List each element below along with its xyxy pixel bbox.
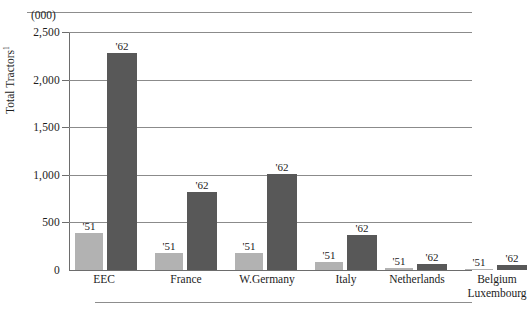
y-axis-tick-label: 0 bbox=[54, 264, 60, 276]
bar-label-1962: '62 bbox=[116, 40, 129, 52]
category-label-line: France bbox=[170, 273, 201, 285]
top-rule bbox=[27, 12, 472, 13]
bar-label-1951: '51 bbox=[473, 256, 486, 268]
bar-1951: '51 bbox=[75, 233, 103, 270]
bar-label-1951: '51 bbox=[83, 220, 96, 232]
x-axis-baseline bbox=[69, 270, 472, 271]
bar-1962: '62 bbox=[187, 192, 217, 270]
y-axis-title-footnote-marker: 1 bbox=[2, 46, 11, 50]
x-axis-category-label: BelgiumLuxembourg bbox=[453, 273, 531, 300]
y-axis-tick bbox=[62, 222, 69, 223]
bar-label-1962: '62 bbox=[276, 161, 289, 173]
x-axis-category-label: W.Germany bbox=[225, 273, 309, 287]
bar-1951: '51 bbox=[385, 268, 413, 270]
bar-group: '51'62 bbox=[235, 32, 297, 270]
bar-group: '51'62 bbox=[75, 32, 137, 270]
bar-1962: '62 bbox=[497, 265, 527, 270]
y-axis-title: Total Tractors1 bbox=[2, 96, 16, 114]
y-axis-tick bbox=[62, 127, 69, 128]
bar-group: '51'62 bbox=[155, 32, 217, 270]
x-axis-category-label: Italy bbox=[307, 273, 385, 287]
bar-1951: '51 bbox=[155, 253, 183, 270]
y-axis-tick bbox=[62, 32, 69, 33]
category-label-line: EEC bbox=[93, 273, 115, 285]
bar-label-1951: '51 bbox=[393, 255, 406, 267]
x-axis-category-label: France bbox=[147, 273, 225, 287]
bar-label-1962: '62 bbox=[426, 251, 439, 263]
category-label-line: Netherlands bbox=[389, 273, 445, 285]
bar-label-1951: '51 bbox=[163, 240, 176, 252]
bar-label-1962: '62 bbox=[506, 252, 519, 264]
y-axis-tick-label: 2,500 bbox=[33, 26, 60, 38]
bar-group: '51'62 bbox=[385, 32, 447, 270]
x-axis-category-label: Netherlands bbox=[375, 273, 459, 287]
y-axis-tick bbox=[62, 175, 69, 176]
category-label-line: Italy bbox=[335, 273, 356, 285]
x-axis-category-label: EEC bbox=[67, 273, 141, 287]
y-axis-title-text: Total Tractors bbox=[4, 50, 16, 114]
y-axis-tick-label: 2,000 bbox=[33, 74, 60, 86]
unit-caption: (000) bbox=[31, 9, 56, 21]
category-label-line: Luxembourg bbox=[453, 287, 531, 301]
bar-1951: '51 bbox=[465, 269, 493, 271]
category-label-line: Belgium bbox=[477, 273, 517, 285]
bar-1962: '62 bbox=[417, 264, 447, 270]
y-axis-tick-label: 1,500 bbox=[33, 121, 60, 133]
bar-label-1962: '62 bbox=[196, 179, 209, 191]
bar-1951: '51 bbox=[315, 262, 343, 270]
y-axis-tick-label: 500 bbox=[42, 216, 60, 228]
y-axis-tick bbox=[62, 80, 69, 81]
bar-label-1951: '51 bbox=[243, 240, 256, 252]
bar-label-1951: '51 bbox=[323, 249, 336, 261]
bar-1962: '62 bbox=[107, 53, 137, 270]
category-label-line: W.Germany bbox=[239, 273, 294, 285]
bar-1951: '51 bbox=[235, 253, 263, 270]
plot-area: 05001,0001,5002,0002,500'51'62'51'62'51'… bbox=[69, 32, 472, 270]
bar-1962: '62 bbox=[267, 174, 297, 270]
bottom-rule bbox=[95, 302, 472, 303]
bar-group: '51'62 bbox=[315, 32, 377, 270]
y-axis-tick-label: 1,000 bbox=[33, 169, 60, 181]
bar-group: '51'62 bbox=[465, 32, 527, 270]
bar-1962: '62 bbox=[347, 235, 377, 270]
bar-label-1962: '62 bbox=[356, 222, 369, 234]
